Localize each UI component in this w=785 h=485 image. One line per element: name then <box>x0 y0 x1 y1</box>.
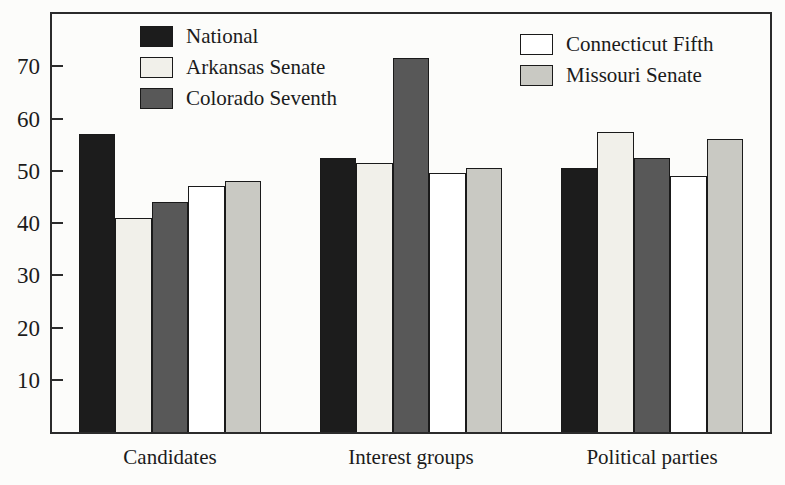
y-axis-tick-60 <box>52 118 63 120</box>
legend-label-arkansas-senate: Arkansas Senate <box>186 55 325 79</box>
legend-label-connecticut-fifth: Connecticut Fifth <box>566 32 714 56</box>
y-axis-tick-label-60: 60 <box>2 108 40 131</box>
bar-political-parties-missouri-senate <box>707 139 743 432</box>
y-axis-tick-label-30: 30 <box>2 264 40 287</box>
y-axis-tick-label-70: 70 <box>2 55 40 78</box>
legend-item-connecticut-fifth: Connecticut Fifth <box>520 32 714 56</box>
legend-item-missouri-senate: Missouri Senate <box>520 63 714 87</box>
y-axis-tick-label-40: 40 <box>2 212 40 235</box>
bar-candidates-national <box>79 134 115 432</box>
bar-political-parties-connecticut-fifth <box>670 176 706 432</box>
legend-label-missouri-senate: Missouri Senate <box>566 63 702 87</box>
y-axis-tick-70 <box>52 65 63 67</box>
bar-candidates-missouri-senate <box>225 181 261 432</box>
legend-item-national: National <box>140 24 337 48</box>
bar-interest-groups-missouri-senate <box>466 168 502 432</box>
legend-swatch-colorado-seventh <box>140 88 173 109</box>
bar-interest-groups-colorado-seventh <box>393 58 429 432</box>
bar-political-parties-national <box>561 168 597 432</box>
bar-interest-groups-arkansas-senate <box>356 163 392 432</box>
y-axis-tick-label-10: 10 <box>2 369 40 392</box>
legend-right: Connecticut Fifth Missouri Senate <box>520 32 714 87</box>
legend-item-colorado-seventh: Colorado Seventh <box>140 86 337 110</box>
x-axis-label-candidates: Candidates <box>79 444 261 470</box>
bar-candidates-connecticut-fifth <box>188 186 224 432</box>
legend-swatch-connecticut-fifth <box>520 34 553 55</box>
bar-political-parties-colorado-seventh <box>634 158 670 432</box>
y-axis-tick-30 <box>52 274 63 276</box>
legend-item-arkansas-senate: Arkansas Senate <box>140 55 337 79</box>
y-axis-tick-label-20: 20 <box>2 317 40 340</box>
bar-candidates-arkansas-senate <box>115 218 151 432</box>
bar-candidates-colorado-seventh <box>152 202 188 432</box>
legend-swatch-missouri-senate <box>520 65 553 86</box>
y-axis-tick-50 <box>52 170 63 172</box>
bar-interest-groups-connecticut-fifth <box>429 173 465 432</box>
legend-swatch-arkansas-senate <box>140 57 173 78</box>
y-axis-tick-20 <box>52 327 63 329</box>
x-axis-label-interest-groups: Interest groups <box>320 444 502 470</box>
y-axis-tick-label-50: 50 <box>2 160 40 183</box>
legend-label-national: National <box>186 24 258 48</box>
legend-swatch-national <box>140 26 173 47</box>
y-axis-tick-40 <box>52 222 63 224</box>
plot-area: National Arkansas Senate Colorado Sevent… <box>50 12 772 434</box>
bar-political-parties-arkansas-senate <box>597 132 633 432</box>
legend-left: National Arkansas Senate Colorado Sevent… <box>140 24 337 110</box>
bar-chart-figure: National Arkansas Senate Colorado Sevent… <box>0 0 785 485</box>
x-axis-label-political-parties: Political parties <box>561 444 743 470</box>
bar-interest-groups-national <box>320 158 356 432</box>
y-axis-tick-10 <box>52 379 63 381</box>
bar-group-interest-groups <box>320 14 502 432</box>
legend-label-colorado-seventh: Colorado Seventh <box>186 86 337 110</box>
